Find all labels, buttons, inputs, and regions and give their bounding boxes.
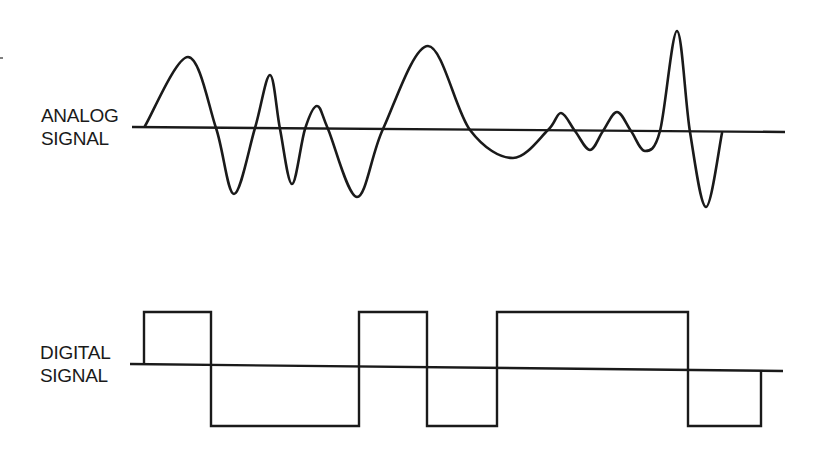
analog-vs-digital-diagram: ANALOG SIGNAL DIGITAL SIGNAL (0, 0, 823, 450)
digital-axis-line (130, 364, 783, 371)
analog-waveform (145, 31, 722, 207)
analog-axis-line (132, 127, 785, 132)
signals-canvas (0, 0, 823, 450)
